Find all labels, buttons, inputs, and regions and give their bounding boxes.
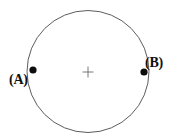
point-b-label: (B) [145,56,163,70]
point-a-label: (A) [9,73,28,87]
circle-diagram-figure: (A) (B) [0,0,179,139]
point-a-dot [29,66,36,73]
